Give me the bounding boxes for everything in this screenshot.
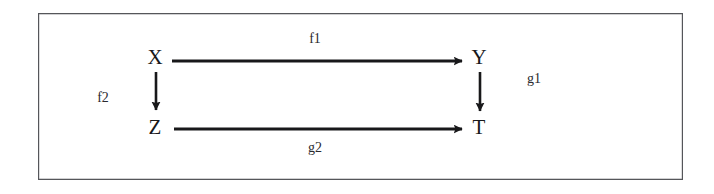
edge-label-f2: f2 [97,91,109,105]
node-z: Z [149,117,162,138]
node-x: X [147,47,162,68]
diagram-canvas: X Y Z T f1 g2 f2 g1 [0,0,714,194]
edge-label-f1: f1 [309,32,321,46]
edge-label-g2: g2 [308,141,322,155]
node-t: T [473,117,486,138]
node-y: Y [471,47,486,68]
edge-label-g1: g1 [527,72,541,86]
